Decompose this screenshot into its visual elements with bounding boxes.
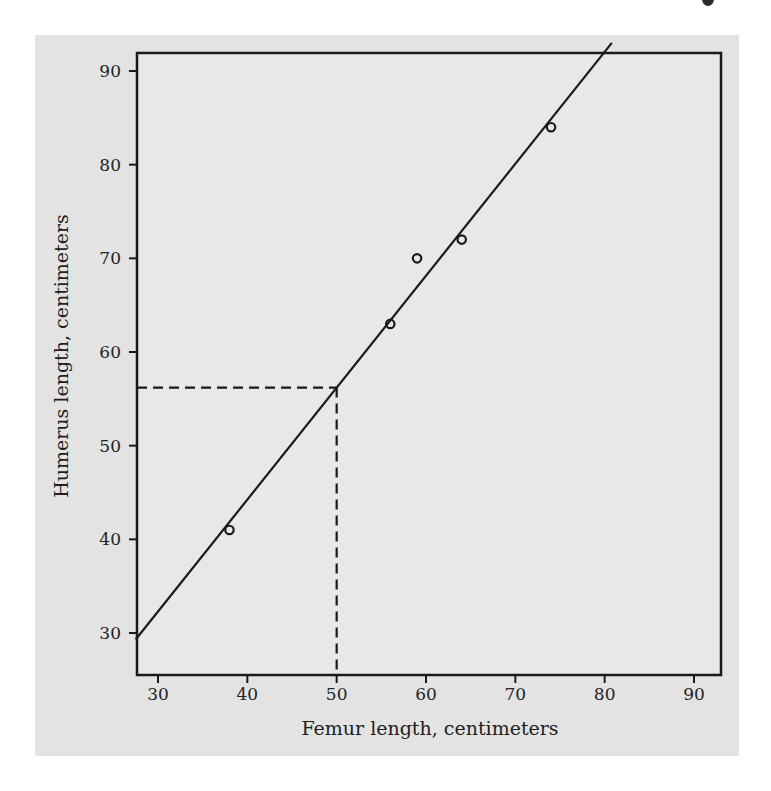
y-tick-label: 70 — [99, 248, 121, 268]
x-tick-label: 60 — [415, 684, 437, 704]
x-axis-label: Femur length, centimeters — [301, 717, 558, 739]
y-axis-label: Humerus length, centimeters — [50, 214, 72, 498]
y-tick-label: 40 — [99, 529, 121, 549]
y-tick-label: 80 — [99, 155, 121, 175]
x-tick-label: 40 — [237, 684, 259, 704]
y-tick-label: 90 — [99, 61, 121, 81]
x-tick-label: 70 — [505, 684, 527, 704]
y-tick-label: 30 — [99, 623, 121, 643]
x-tick-label: 90 — [683, 684, 705, 704]
scatter-chart: 30405060708090 30405060708090 Femur leng… — [0, 0, 771, 791]
y-tick-label: 60 — [99, 342, 121, 362]
plot-area — [137, 53, 721, 675]
y-tick-label: 50 — [99, 436, 121, 456]
x-tick-label: 30 — [147, 684, 169, 704]
x-tick-label: 80 — [594, 684, 616, 704]
x-tick-label: 50 — [326, 684, 348, 704]
